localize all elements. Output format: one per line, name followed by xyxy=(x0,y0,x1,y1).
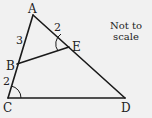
point-label-E: E xyxy=(72,40,81,54)
segment-AC xyxy=(8,15,33,98)
point-label-D: D xyxy=(121,101,131,115)
angle-arc-C xyxy=(11,86,21,98)
note-not-to-scale-line1: Not to xyxy=(110,20,142,31)
segment-BE xyxy=(17,47,69,64)
point-label-C: C xyxy=(3,101,12,115)
point-label-A: A xyxy=(27,2,37,16)
length-label-AE: 2 xyxy=(54,21,61,34)
triangle-diagram: A B C D E 3 2 2 Not to scale xyxy=(0,0,152,118)
length-label-BC: 2 xyxy=(3,75,10,88)
note-not-to-scale-line2: scale xyxy=(113,31,139,42)
point-label-B: B xyxy=(6,59,15,73)
length-label-AB: 3 xyxy=(16,34,23,47)
